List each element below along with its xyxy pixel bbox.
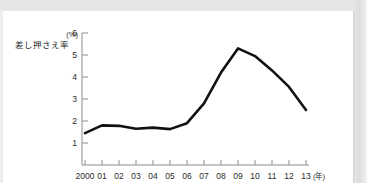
x-tick-label: 04	[148, 171, 158, 181]
x-tick-label: 01	[97, 171, 107, 181]
x-tick-label: 02	[114, 171, 124, 181]
scanned-page: (%) 差し押さえ率 6 5 4 3	[0, 0, 367, 183]
x-tick-label: 13	[301, 171, 311, 181]
y-axis-tick-labels: 6 5 4 3 2 1	[72, 28, 77, 148]
x-tick-label: 06	[182, 171, 192, 181]
x-axis-ticks	[85, 160, 306, 165]
y-axis-ticks	[82, 33, 88, 143]
y-axis-title: 差し押さえ率	[15, 40, 69, 50]
y-tick-label: 6	[72, 28, 77, 38]
y-tick-label: 5	[72, 50, 77, 60]
line-chart: (%) 差し押さえ率 6 5 4 3	[3, 11, 353, 183]
x-tick-label: 08	[216, 171, 226, 181]
chart-panel: (%) 差し押さえ率 6 5 4 3	[3, 11, 353, 183]
x-tick-label: 2000	[76, 171, 95, 181]
x-tick-label: 09	[233, 171, 243, 181]
x-tick-label: 10	[250, 171, 260, 181]
x-tick-label: 12	[284, 171, 294, 181]
x-tick-label: 11	[268, 171, 277, 181]
page-edge-right	[353, 0, 367, 183]
y-tick-label: 2	[72, 116, 77, 126]
y-tick-label: 4	[72, 72, 77, 82]
x-tick-label: 05	[165, 171, 175, 181]
x-axis-unit-label: (年)	[313, 171, 325, 181]
x-tick-label: 03	[131, 171, 141, 181]
y-tick-label: 3	[72, 94, 77, 104]
page-edge-top	[0, 0, 367, 10]
y-tick-label: 1	[72, 138, 77, 148]
x-tick-label: 07	[199, 171, 209, 181]
x-axis-tick-labels: 200001020304050607080910111213	[76, 171, 311, 181]
data-series-line	[85, 48, 306, 133]
